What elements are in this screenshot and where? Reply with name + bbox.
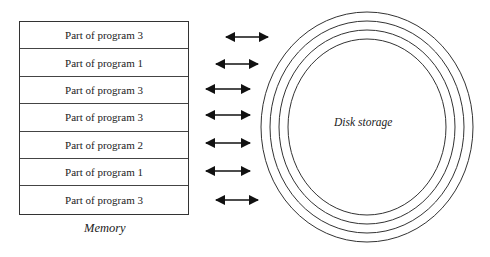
- transfer-arrows: [206, 37, 268, 200]
- diagram-canvas: [0, 0, 490, 257]
- disk-storage-label: Disk storage: [334, 116, 392, 128]
